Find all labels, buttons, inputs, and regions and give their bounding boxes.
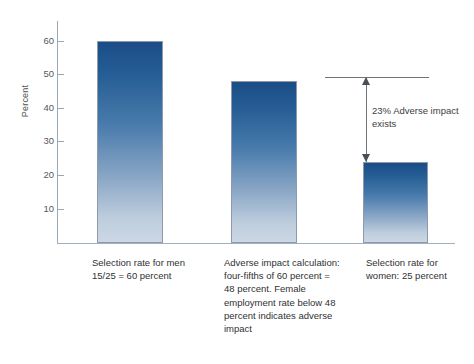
y-tick-mark-50 — [57, 74, 64, 75]
x-axis-line — [57, 243, 455, 244]
arrow-head-down-icon — [362, 154, 370, 162]
y-tick-label-30: 30 — [43, 135, 54, 146]
reference-line-48-percent — [325, 77, 429, 78]
bar-women-selection-rate — [363, 162, 428, 243]
y-tick-mark-10 — [57, 209, 64, 210]
y-tick-label-20: 20 — [43, 169, 54, 180]
y-tick-label-40: 40 — [43, 102, 54, 113]
caption-bar-adverse-impact: Adverse impact calculation: four-fifths … — [224, 256, 342, 335]
caption-bar-women: Selection rate for women: 25 percent — [366, 256, 466, 282]
adverse-impact-annotation: 23% Adverse impact exists — [372, 104, 472, 130]
y-tick-label-50: 50 — [43, 68, 54, 79]
y-tick-mark-40 — [57, 108, 64, 109]
y-tick-mark-60 — [57, 41, 64, 42]
y-tick-label-60: 60 — [43, 35, 54, 46]
y-tick-mark-20 — [57, 175, 64, 176]
adverse-impact-arrow-line — [366, 77, 367, 162]
bar-adverse-impact-threshold — [231, 81, 297, 243]
y-tick-mark-30 — [57, 141, 64, 142]
caption-bar-men: Selection rate for men 15/25 = 60 percen… — [92, 256, 196, 282]
y-axis-title: Percent — [20, 66, 30, 136]
arrow-head-up-icon — [362, 77, 370, 85]
bar-men-selection-rate — [97, 41, 163, 243]
y-tick-label-10: 10 — [43, 203, 54, 214]
bar-chart: Percent 60 50 40 30 20 10 23% Adverse im… — [0, 0, 474, 364]
